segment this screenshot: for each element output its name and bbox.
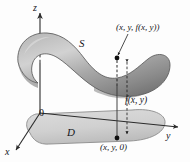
domain-region — [27, 110, 165, 145]
surface-over-domain-diagram: z y x 0 S D (x, y, f(x, y)) f(x, y) (x, … — [0, 0, 190, 162]
annotation-height-fxy: f(x, y) — [125, 96, 147, 106]
annotation-base-point: (x, y, 0) — [100, 143, 127, 152]
axis-label-y: y — [166, 131, 170, 141]
surface-S — [18, 33, 170, 98]
point-on-surface — [115, 56, 120, 61]
axis-label-x: x — [5, 147, 9, 157]
domain-label-D: D — [67, 127, 75, 138]
diagram-canvas — [0, 0, 190, 162]
annotation-surface-point: (x, y, f(x, y)) — [116, 23, 159, 32]
point-in-domain — [115, 136, 120, 141]
origin-label: 0 — [39, 108, 44, 118]
leader-line-surface-point — [118, 34, 128, 55]
axis-label-z: z — [33, 3, 37, 13]
surface-label-S: S — [79, 38, 85, 49]
